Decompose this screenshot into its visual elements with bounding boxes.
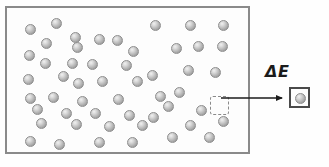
gas-particle (128, 46, 139, 57)
gas-particle (67, 58, 78, 69)
gas-particle (112, 35, 123, 46)
gas-particle (77, 96, 88, 107)
gas-particle (148, 112, 159, 123)
gas-particle (124, 110, 135, 121)
gas-particle (113, 94, 124, 105)
gas-particle (36, 118, 47, 129)
gas-particle (24, 50, 35, 61)
gas-particle (127, 137, 138, 148)
gas-particle (217, 41, 228, 52)
gas-particle (218, 20, 229, 31)
gas-particle (94, 34, 105, 45)
delta-e-label: ΔE (265, 62, 289, 81)
gas-particle (32, 104, 43, 115)
gas-particle (183, 65, 194, 76)
gas-particle (58, 71, 69, 82)
gas-particle (72, 42, 83, 53)
energy-transfer-figure: ΔE (0, 0, 329, 167)
gas-particle (23, 74, 34, 85)
gas-particle (87, 59, 98, 70)
gas-particle (150, 20, 161, 31)
gas-particle (163, 101, 174, 112)
gas-particle (204, 132, 215, 143)
gas-particle (121, 60, 132, 71)
gas-particle (90, 108, 101, 119)
isolated-particle (295, 93, 306, 104)
gas-particle (73, 78, 84, 89)
gas-particle (51, 18, 62, 29)
gas-particle (193, 41, 204, 52)
gas-particle (25, 24, 36, 35)
gas-particle (71, 119, 82, 130)
gas-particle (54, 139, 65, 150)
gas-particle (132, 76, 143, 87)
gas-particle (104, 121, 115, 132)
gas-particle (94, 137, 105, 148)
gas-particle (171, 43, 182, 54)
gas-particle (196, 105, 207, 116)
gas-particle (61, 108, 72, 119)
gas-particle (155, 91, 166, 102)
gas-particle (25, 136, 36, 147)
gas-particle (167, 132, 178, 143)
gas-particle (48, 92, 59, 103)
gas-particle (185, 20, 196, 31)
gas-particle (210, 67, 221, 78)
gas-particle (218, 116, 229, 127)
gas-particle (174, 87, 185, 98)
isolated-particle-box (289, 87, 310, 108)
gas-particle (41, 38, 52, 49)
gas-particle (25, 93, 36, 104)
gas-particle (185, 120, 196, 131)
energy-transfer-arrow (221, 92, 289, 104)
gas-particle (147, 70, 158, 81)
gas-particle (137, 120, 148, 131)
particle-reservoir-box (5, 6, 250, 154)
gas-particle (97, 76, 108, 87)
gas-particle (40, 58, 51, 69)
